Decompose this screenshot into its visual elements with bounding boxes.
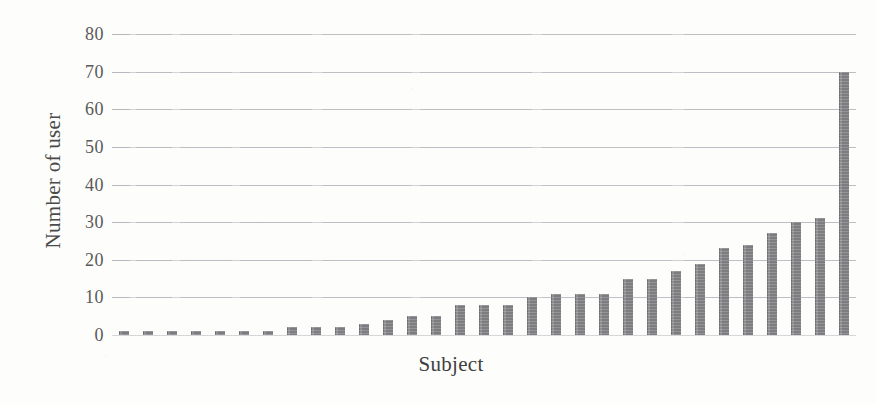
axis-baseline xyxy=(112,335,856,336)
bar xyxy=(263,331,273,335)
bar xyxy=(527,297,537,335)
bar xyxy=(767,233,777,335)
bar xyxy=(743,245,753,335)
y-tick-label: 80 xyxy=(56,24,104,45)
bar-series xyxy=(112,34,856,335)
bar xyxy=(599,294,609,335)
bar xyxy=(839,72,849,335)
bar xyxy=(407,316,417,335)
y-axis-tick-labels: 80706050403020100 xyxy=(52,0,104,405)
y-tick-label: 50 xyxy=(56,136,104,157)
y-tick-label: 70 xyxy=(56,61,104,82)
y-tick-label: 60 xyxy=(56,99,104,120)
bar xyxy=(671,271,681,335)
plot-area xyxy=(112,34,856,335)
bar xyxy=(479,305,489,335)
bar xyxy=(359,324,369,335)
bar xyxy=(287,327,297,335)
x-axis-title: Subject xyxy=(0,352,876,377)
bar xyxy=(719,248,729,335)
y-tick-label: 30 xyxy=(56,212,104,233)
bar xyxy=(167,331,177,335)
bar xyxy=(647,279,657,335)
bar xyxy=(695,264,705,335)
bar xyxy=(431,316,441,335)
x-axis-title-text: Subject xyxy=(418,352,483,376)
y-tick-label: 20 xyxy=(56,249,104,270)
bar xyxy=(455,305,465,335)
bar xyxy=(215,331,225,335)
y-tick-label: 0 xyxy=(56,325,104,346)
bar xyxy=(383,320,393,335)
bar xyxy=(551,294,561,335)
bar-chart-figure: Number of user 80706050403020100 Subject xyxy=(0,0,876,405)
bar xyxy=(239,331,249,335)
bar xyxy=(191,331,201,335)
bar xyxy=(503,305,513,335)
y-tick-label: 40 xyxy=(56,174,104,195)
bar xyxy=(575,294,585,335)
bar xyxy=(815,218,825,335)
bar xyxy=(143,331,153,335)
bar xyxy=(623,279,633,335)
bar xyxy=(311,327,321,335)
y-tick-label: 10 xyxy=(56,287,104,308)
bar xyxy=(119,331,129,335)
bar xyxy=(335,327,345,335)
bar xyxy=(791,222,801,335)
